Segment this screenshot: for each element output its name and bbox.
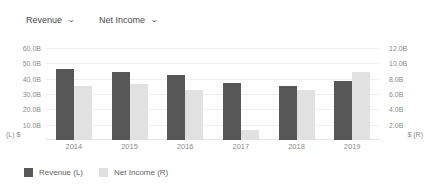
revenue-bar[interactable]: [334, 81, 352, 140]
revenue-metric-label: Revenue: [26, 15, 62, 25]
left-axis: (L) $ 10.0B20.0B30.0B40.0B50.0B60.0B: [2, 48, 44, 140]
revenue-bar[interactable]: [167, 75, 185, 140]
left-axis-tick: 50.0B: [23, 60, 41, 67]
net-income-metric-dropdown[interactable]: Net Income ⌄: [95, 13, 162, 27]
right-axis-tick: 6.0B: [389, 91, 403, 98]
net-income-bar[interactable]: [130, 84, 148, 140]
left-axis-tick: 60.0B: [23, 45, 41, 52]
revenue-bar[interactable]: [56, 69, 74, 140]
legend-item[interactable]: Net Income (R): [99, 168, 168, 177]
bar-group: [157, 48, 213, 140]
net-income-bar[interactable]: [352, 72, 370, 140]
chevron-down-icon: ⌄: [67, 16, 76, 24]
right-axis-tick: 8.0B: [389, 75, 403, 82]
legend-label: Net Income (R): [114, 168, 168, 177]
revenue-bar[interactable]: [223, 83, 241, 140]
right-axis-tick: 10.0B: [389, 60, 407, 67]
x-axis-tick-label: 2019: [324, 140, 380, 154]
chart-legend: Revenue (L)Net Income (R): [24, 168, 168, 177]
dual-axis-bar-chart: (L) $ 10.0B20.0B30.0B40.0B50.0B60.0B $ (…: [0, 42, 428, 154]
net-income-bar[interactable]: [241, 130, 259, 140]
right-axis-tick: 12.0B: [389, 45, 407, 52]
bar-group: [102, 48, 158, 140]
bar-group: [324, 48, 380, 140]
plot-area: [46, 48, 380, 140]
x-axis-tick-label: 2016: [157, 140, 213, 154]
chevron-down-icon: ⌄: [150, 16, 159, 24]
left-axis-tick: 40.0B: [23, 75, 41, 82]
left-axis-tick: 20.0B: [23, 106, 41, 113]
left-axis-corner-label: (L) $: [6, 131, 20, 138]
revenue-bar[interactable]: [112, 72, 130, 140]
bar-groups: [46, 48, 380, 140]
left-axis-tick: 10.0B: [23, 121, 41, 128]
net-income-metric-label: Net Income: [99, 15, 145, 25]
right-axis-tick: 2.0B: [389, 121, 403, 128]
legend-swatch: [24, 168, 33, 177]
legend-label: Revenue (L): [39, 168, 83, 177]
bar-group: [269, 48, 325, 140]
x-axis-tick-label: 2015: [102, 140, 158, 154]
x-axis-tick-label: 2017: [213, 140, 269, 154]
right-axis: $ (R) 2.0B4.0B6.0B8.0B10.0B12.0B: [384, 48, 426, 140]
left-axis-tick: 30.0B: [23, 91, 41, 98]
net-income-bar[interactable]: [185, 90, 203, 140]
x-axis-tick-label: 2014: [46, 140, 102, 154]
x-axis-tick-label: 2018: [269, 140, 325, 154]
net-income-bar[interactable]: [74, 86, 92, 140]
legend-swatch: [99, 168, 108, 177]
revenue-metric-dropdown[interactable]: Revenue ⌄: [22, 13, 79, 27]
net-income-bar[interactable]: [297, 90, 315, 140]
bar-group: [213, 48, 269, 140]
right-axis-tick: 4.0B: [389, 106, 403, 113]
legend-item[interactable]: Revenue (L): [24, 168, 83, 177]
metric-selector-row: Revenue ⌄ Net Income ⌄: [22, 13, 162, 27]
x-axis-labels: 201420152016201720182019: [46, 140, 380, 154]
revenue-bar[interactable]: [279, 86, 297, 140]
right-axis-corner-label: $ (R): [407, 131, 423, 138]
bar-group: [46, 48, 102, 140]
